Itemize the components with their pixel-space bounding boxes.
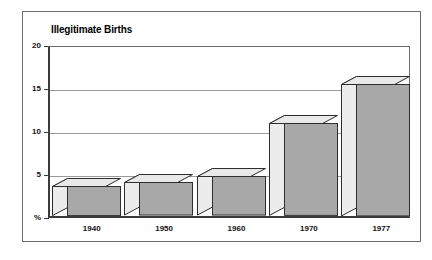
bar-3d-body-1970	[269, 115, 338, 216]
bar-1950[interactable]	[124, 174, 193, 216]
y-axis-label-5: 5	[19, 170, 41, 179]
y-axis-label-%: %	[19, 213, 41, 222]
bar-3d-body-1940	[52, 178, 121, 216]
bar-3d-body-1977	[341, 76, 410, 216]
x-axis-label-1970: 1970	[282, 224, 336, 233]
x-axis-label-1960: 1960	[210, 224, 264, 233]
plot-area	[48, 46, 410, 218]
y-axis-label-20: 20	[19, 41, 41, 50]
bar-3d-body-1960	[197, 168, 266, 216]
chart-title: Illegitimate Births	[51, 24, 132, 35]
x-axis-label-1940: 1940	[65, 224, 119, 233]
x-axis-label-1950: 1950	[137, 224, 191, 233]
figure-root: Illegitimate Births %5101520 19401950196…	[0, 0, 432, 260]
bar-1940[interactable]	[52, 178, 121, 216]
bar-1970[interactable]	[269, 115, 338, 216]
bar-3d-body-1950	[124, 174, 193, 216]
y-axis-label-15: 15	[19, 84, 41, 93]
x-axis-label-1977: 1977	[354, 224, 408, 233]
bar-1960[interactable]	[197, 168, 266, 216]
y-axis-label-10: 10	[19, 127, 41, 136]
bar-1977[interactable]	[341, 76, 410, 216]
